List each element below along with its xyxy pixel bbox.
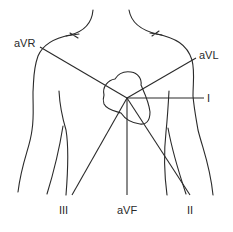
lead-i-label: I [207, 93, 210, 104]
lead-avr-label: aVR [14, 38, 35, 49]
lead-iii-axis [72, 98, 127, 195]
lead-avr-axis [40, 47, 127, 98]
lead-ii-label: II [187, 205, 193, 216]
lead-avf-label: aVF [117, 205, 137, 216]
right-neck-outline [129, 10, 213, 195]
right-arm-inner-outline [165, 91, 169, 195]
lead-avl-axis [127, 58, 196, 98]
lead-avl-label: aVL [199, 50, 219, 61]
lead-ii-axis [127, 98, 190, 195]
lead-iii-label: III [59, 205, 68, 216]
left-torso-outline [47, 126, 63, 194]
torso-lead-diagram [0, 0, 233, 232]
right-clavicle-mark [150, 31, 162, 36]
